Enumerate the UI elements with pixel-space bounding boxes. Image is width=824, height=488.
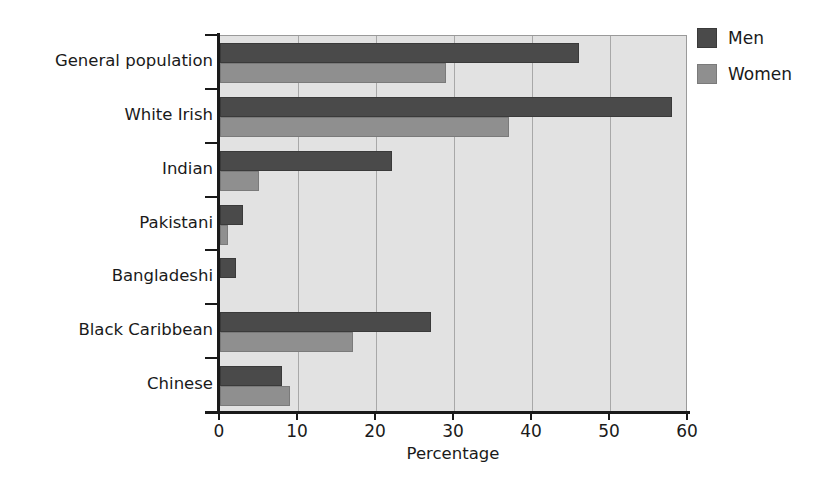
bar-women-white-irish [220,117,509,137]
bar-men-bangladeshi [220,258,236,278]
bar-men-chinese [220,366,282,386]
legend-swatch-men [697,28,717,48]
category-labels: General populationWhite IrishIndianPakis… [0,0,213,488]
legend-swatch-women [697,64,717,84]
bar-women-black-caribbean [220,332,353,352]
bar-women-pakistani [220,225,228,245]
x-tick-10 [296,411,298,420]
bar-chart: 0102030405060 General populationWhite Ir… [0,0,824,488]
legend-item-men: Men [697,28,817,48]
legend-label-women: Women [728,64,792,84]
bar-women-indian [220,171,259,191]
x-tick-40 [530,411,532,420]
category-label-indian: Indian [3,159,213,178]
category-label-pakistani: Pakistani [3,213,213,232]
plot-area [219,35,687,412]
x-tick-label-10: 10 [267,421,327,441]
x-axis-line [205,411,690,414]
x-tick-label-30: 30 [423,421,483,441]
category-label-black-caribbean: Black Caribbean [3,320,213,339]
x-tick-60 [686,411,688,420]
x-tick-label-60: 60 [657,421,717,441]
x-axis-title: Percentage [219,444,687,463]
legend-item-women: Women [697,64,817,84]
bar-men-black-caribbean [220,312,431,332]
chart-legend: MenWomen [697,28,817,100]
x-tick-20 [374,411,376,420]
bar-men-general-population [220,43,579,63]
bar-men-white-irish [220,97,672,117]
x-tick-label-50: 50 [579,421,639,441]
gridline-x-30 [454,36,455,411]
bar-men-pakistani [220,205,243,225]
legend-label-men: Men [728,28,764,48]
x-tick-0 [218,411,220,420]
gridline-x-40 [532,36,533,411]
category-label-bangladeshi: Bangladeshi [3,266,213,285]
gridline-x-20 [376,36,377,411]
x-tick-label-40: 40 [501,421,561,441]
category-label-white-irish: White Irish [3,105,213,124]
gridline-x-10 [298,36,299,411]
x-tick-label-20: 20 [345,421,405,441]
gridline-x-50 [610,36,611,411]
category-label-chinese: Chinese [3,374,213,393]
bar-women-general-population [220,63,446,83]
bar-men-indian [220,151,392,171]
bar-women-chinese [220,386,290,406]
x-tick-30 [452,411,454,420]
category-label-general-population: General population [3,51,213,70]
x-tick-50 [608,411,610,420]
